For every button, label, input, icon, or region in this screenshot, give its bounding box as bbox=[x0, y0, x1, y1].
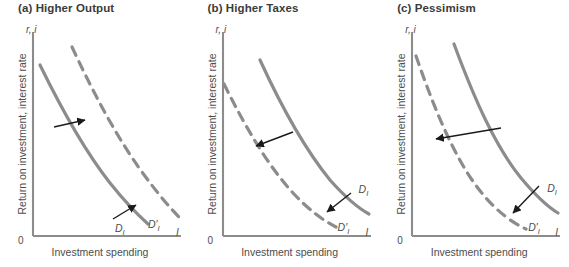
x-axis-label: Investment spending bbox=[220, 246, 360, 258]
curve-label-dashed: D′I bbox=[338, 221, 350, 236]
panel-c: (c) Pessimism r, i I 0 Return on investm… bbox=[379, 0, 569, 267]
demand-curve-solid bbox=[454, 44, 558, 213]
x-axis-label: Investment spending bbox=[409, 246, 549, 258]
y-axis-label: Return on investment, interest rate bbox=[395, 49, 407, 219]
origin-label: 0 bbox=[208, 235, 214, 246]
curve-label-solid: DI bbox=[115, 222, 125, 237]
panel-a: (a) Higher Output r, i I 0 Return on inv… bbox=[0, 0, 190, 267]
curve-label-solid: DI bbox=[547, 182, 557, 197]
y-axis-tip-label: r, i bbox=[26, 24, 37, 35]
curve-label-solid: DI bbox=[359, 183, 369, 198]
x-axis-tip-label: I bbox=[366, 227, 369, 238]
demand-curve-dashed bbox=[72, 47, 180, 218]
demand-curve-dashed bbox=[224, 84, 336, 227]
shift-arrow-lower bbox=[327, 193, 351, 212]
demand-curve-solid bbox=[40, 65, 148, 224]
panel-a-plot bbox=[0, 0, 190, 267]
origin-label: 0 bbox=[18, 235, 24, 246]
panel-b: (b) Higher Taxes r, i I 0 Return on inve… bbox=[190, 0, 380, 267]
x-axis-tip-label: I bbox=[555, 227, 558, 238]
y-axis-tip-label: r, i bbox=[216, 24, 227, 35]
curve-label-dashed: D′I bbox=[528, 221, 540, 236]
shift-arrow-lower bbox=[113, 205, 136, 219]
y-axis-label: Return on investment, interest rate bbox=[206, 49, 218, 219]
shift-arrow-lower bbox=[513, 186, 539, 213]
figure-container: (a) Higher Output r, i I 0 Return on inv… bbox=[0, 0, 569, 267]
curve-label-dashed: D′I bbox=[148, 218, 160, 233]
demand-curve-solid bbox=[260, 60, 369, 214]
y-axis-tip-label: r, i bbox=[405, 24, 416, 35]
demand-curve-dashed bbox=[416, 56, 526, 229]
y-axis-label: Return on investment, interest rate bbox=[16, 49, 28, 219]
panel-b-plot bbox=[190, 0, 380, 267]
origin-label: 0 bbox=[397, 235, 403, 246]
panel-c-plot bbox=[379, 0, 569, 267]
shift-arrow-upper bbox=[256, 132, 293, 146]
x-axis-label: Investment spending bbox=[30, 246, 170, 258]
x-axis-tip-label: I bbox=[176, 227, 179, 238]
